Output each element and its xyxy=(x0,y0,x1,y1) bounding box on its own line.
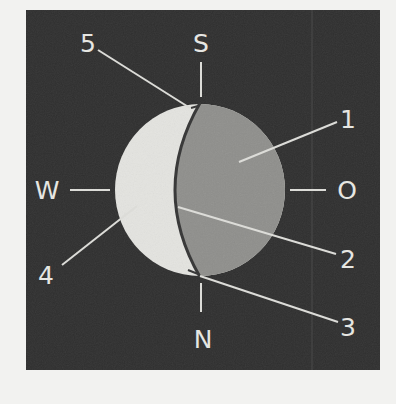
callout-1: 1 xyxy=(340,105,356,134)
moon-phase-diagram: S N W O 1 2 3 4 5 xyxy=(0,0,396,404)
compass-label-left: W xyxy=(35,176,60,205)
compass-label-top: S xyxy=(193,29,209,58)
callout-3: 3 xyxy=(340,313,356,342)
callout-4: 4 xyxy=(38,261,54,290)
compass-label-bottom: N xyxy=(194,325,213,354)
disk-texture xyxy=(115,104,285,276)
compass-label-right: O xyxy=(337,176,357,205)
callout-5: 5 xyxy=(80,29,96,58)
callout-2: 2 xyxy=(340,245,356,274)
